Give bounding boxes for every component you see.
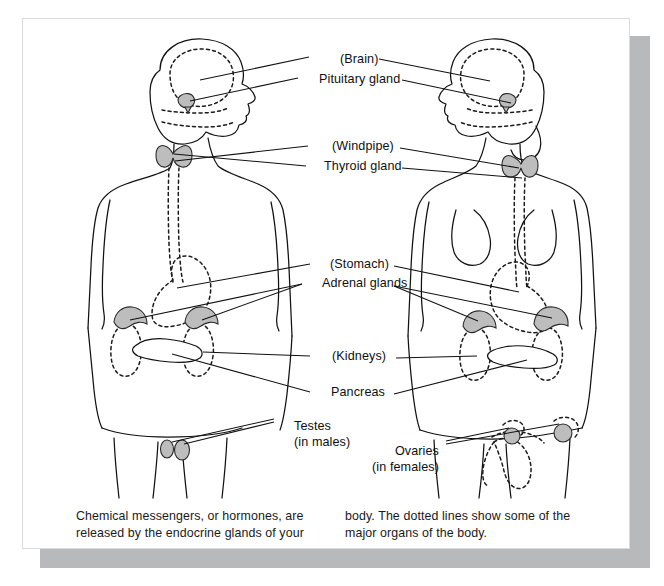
label-stomach: (Stomach) xyxy=(330,257,389,271)
adrenal-gland-male-right xyxy=(185,307,218,329)
ovary-female-right xyxy=(554,424,572,442)
male-figure xyxy=(88,39,292,498)
leader-pituitary-male xyxy=(190,78,298,101)
adrenal-gland-female-left xyxy=(463,311,496,333)
leader-thyroid-male xyxy=(174,154,306,166)
leader-kidney-female xyxy=(396,356,477,358)
label-pituitary: Pituitary gland xyxy=(319,72,400,86)
adrenal-gland-female-right xyxy=(534,307,568,331)
leader-windpipe-male xyxy=(175,146,308,161)
pancreas-female xyxy=(488,346,558,369)
caption-column-left: Chemical messengers, or hormones, are re… xyxy=(76,508,326,542)
label-testes: Testes xyxy=(294,419,331,433)
leader-stomach-female xyxy=(394,266,519,292)
leader-brain-male xyxy=(200,57,309,80)
label-testes-sub: (in males) xyxy=(294,435,350,449)
leader-testis-left xyxy=(172,419,274,442)
label-kidneys: (Kidneys) xyxy=(332,349,386,363)
label-thyroid: Thyroid gland xyxy=(324,159,402,173)
endocrine-diagram-svg: (Brain) Pituitary gland (Windpipe) Thyro… xyxy=(22,18,630,549)
pancreas-male xyxy=(133,339,202,363)
leader-windpipe-female xyxy=(400,148,519,168)
leader-kidney-male xyxy=(203,352,310,356)
label-texts: (Brain) Pituitary gland (Windpipe) Thyro… xyxy=(294,52,439,474)
caption-column-right: body. The dotted lines show some of the … xyxy=(345,508,595,542)
label-adrenal-glands: Adrenal glands xyxy=(322,276,407,290)
label-windpipe: (Windpipe) xyxy=(332,139,394,153)
leader-pituitary-female xyxy=(402,80,511,103)
leader-testis-right xyxy=(184,422,274,444)
label-brain: (Brain) xyxy=(340,52,379,66)
leader-adrenal-female-left xyxy=(394,286,478,321)
testis-male-left xyxy=(161,440,174,458)
label-pancreas: Pancreas xyxy=(331,385,385,399)
label-ovaries-sub: (in females) xyxy=(372,460,439,474)
ovary-female-left xyxy=(504,428,520,444)
label-ovaries: Ovaries xyxy=(395,444,439,458)
endocrine-diagram-page: (Brain) Pituitary gland (Windpipe) Thyro… xyxy=(0,0,664,586)
